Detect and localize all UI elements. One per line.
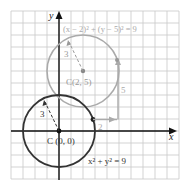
horizontal-shift-label: 2 [98,122,103,132]
y-axis-label: y [48,10,54,21]
translated-center-label: C(2, 5) [66,77,92,87]
horizontal-arrow-icon [109,117,116,123]
translated-radius-arrow-icon [67,40,72,46]
vertical-shift-label: 5 [121,85,126,95]
original-center-label: C (0, 0) [47,136,75,146]
translated-radius-label: 3 [64,49,69,59]
original-radius-arrow-icon [43,100,48,106]
grid-lines [11,11,179,179]
x-axis-label: x [168,131,174,142]
original-circle-equation: x² + y² = 9 [88,156,127,166]
original-radius-label: 3 [40,109,45,119]
translation-end-dot [115,58,119,62]
coordinate-plane: x y 3 C(2, 5) (x − 2)² + (y − 5)² = 9 3 … [0,0,187,191]
translated-circle-equation: (x − 2)² + (y − 5)² = 9 [63,24,137,34]
y-axis-arrow-icon [56,11,63,19]
